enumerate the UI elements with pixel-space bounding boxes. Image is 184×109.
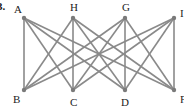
node-label-f: F bbox=[180, 93, 184, 105]
node-f bbox=[172, 88, 176, 92]
node-label-g: G bbox=[122, 1, 130, 13]
bipartite-graph-diagram: 3. AHGIBCDF bbox=[0, 0, 184, 109]
node-label-b: B bbox=[13, 93, 20, 105]
node-d bbox=[123, 88, 127, 92]
node-a bbox=[22, 16, 26, 20]
node-g bbox=[123, 16, 127, 20]
node-label-a: A bbox=[14, 3, 22, 15]
node-h bbox=[71, 16, 75, 20]
problem-number: 3. bbox=[0, 0, 6, 12]
node-c bbox=[71, 88, 75, 92]
node-label-i: I bbox=[180, 7, 184, 19]
node-i bbox=[172, 16, 176, 20]
node-b bbox=[22, 88, 26, 92]
graph-edges bbox=[24, 18, 174, 90]
node-label-d: D bbox=[121, 96, 129, 108]
node-label-c: C bbox=[70, 96, 77, 108]
node-label-h: H bbox=[70, 1, 78, 13]
